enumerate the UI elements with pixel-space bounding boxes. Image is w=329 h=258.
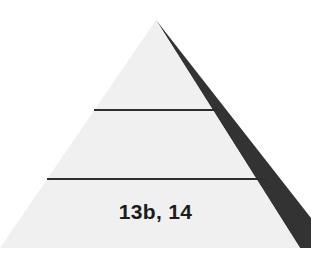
pyramid-tier-bottom-label: 13b, 14 (0, 200, 311, 224)
